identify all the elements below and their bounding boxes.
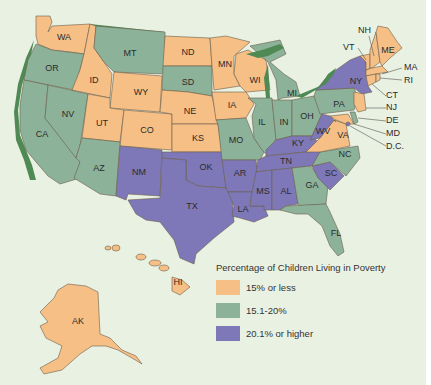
label-ks: KS — [192, 133, 204, 143]
label-ga: GA — [305, 180, 318, 190]
label-ky: KY — [292, 138, 304, 148]
label-fl: FL — [331, 228, 342, 238]
label-dc: D.C. — [386, 141, 404, 151]
label-ia: IA — [228, 100, 237, 110]
edge-strip — [426, 0, 431, 385]
label-ne: NE — [184, 106, 197, 116]
legend-item-mid: 15.1-20% — [216, 302, 421, 319]
legend-swatch-low — [216, 280, 240, 295]
label-pa: PA — [333, 99, 344, 109]
label-nd: ND — [182, 47, 195, 57]
label-ak: AK — [72, 316, 84, 326]
label-mo: MO — [229, 135, 244, 145]
label-al: AL — [280, 186, 291, 196]
label-oh: OH — [300, 111, 314, 121]
label-ri: RI — [404, 75, 413, 85]
legend-item-high: 20.1% or higher — [216, 325, 421, 342]
label-nj: NJ — [386, 102, 397, 112]
legend: Percentage of Children Living in Poverty… — [216, 262, 421, 348]
label-me: ME — [381, 45, 395, 55]
label-ny: NY — [350, 76, 363, 86]
label-co: CO — [140, 125, 154, 135]
state-ri[interactable] — [376, 74, 380, 82]
label-de: DE — [386, 115, 399, 125]
label-ut: UT — [96, 118, 108, 128]
label-tn: TN — [280, 156, 292, 166]
label-ma: MA — [404, 62, 418, 72]
label-ok: OK — [199, 162, 212, 172]
state-dc[interactable] — [346, 122, 350, 126]
label-wy: WY — [134, 87, 149, 97]
label-vt: VT — [343, 42, 355, 52]
label-wa: WA — [57, 32, 71, 42]
label-sc: SC — [325, 168, 338, 178]
label-ct: CT — [386, 90, 398, 100]
legend-swatch-high — [216, 326, 240, 341]
state-hi[interactable] — [105, 245, 190, 295]
label-mi: MI — [287, 88, 297, 98]
legend-swatch-mid — [216, 303, 240, 318]
label-wv: WV — [316, 126, 331, 136]
label-va: VA — [337, 130, 348, 140]
state-ny[interactable] — [316, 56, 372, 94]
label-la: LA — [237, 204, 248, 214]
state-nj[interactable] — [354, 92, 366, 112]
label-wi: WI — [250, 75, 261, 85]
label-ca: CA — [36, 129, 49, 139]
label-in: IN — [280, 117, 289, 127]
legend-label-low: 15% or less — [246, 282, 296, 293]
label-id: ID — [90, 75, 100, 85]
label-nv: NV — [62, 109, 75, 119]
legend-title: Percentage of Children Living in Poverty — [216, 262, 421, 273]
label-il: IL — [258, 117, 266, 127]
state-ct[interactable] — [366, 74, 376, 86]
label-tx: TX — [186, 201, 198, 211]
label-mt: MT — [124, 48, 137, 58]
label-sd: SD — [182, 77, 195, 87]
label-mn: MN — [218, 59, 232, 69]
label-az: AZ — [93, 163, 105, 173]
label-or: OR — [45, 63, 59, 73]
label-hi: HI — [174, 277, 183, 287]
label-nh: NH — [358, 25, 371, 35]
label-ms: MS — [256, 186, 270, 196]
label-nc: NC — [339, 149, 352, 159]
legend-item-low: 15% or less — [216, 279, 421, 296]
label-md: MD — [386, 128, 400, 138]
label-nm: NM — [132, 167, 146, 177]
label-ar: AR — [234, 168, 247, 178]
legend-label-high: 20.1% or higher — [246, 328, 313, 339]
legend-label-mid: 15.1-20% — [246, 305, 287, 316]
state-ak[interactable] — [40, 284, 142, 374]
